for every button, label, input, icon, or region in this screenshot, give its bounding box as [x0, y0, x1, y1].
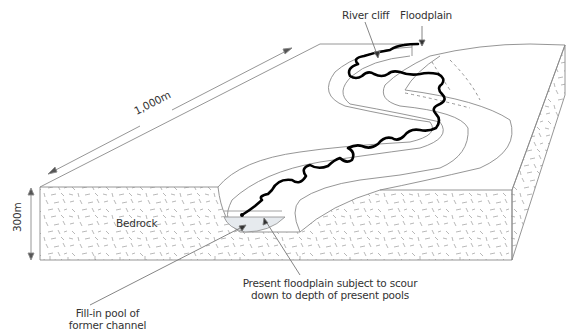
fill-in-pool-line1: Fill-in pool of	[55, 307, 160, 319]
present-floodplain-label: Present floodplain subject to scour down…	[225, 277, 435, 301]
river-cliff-label: River cliff	[342, 9, 389, 21]
present-floodplain-line2: down to depth of present pools	[225, 289, 435, 301]
floodplain-block-diagram: River cliff Floodplain 1,000m 300m Bedro…	[0, 0, 580, 335]
present-floodplain-line1: Present floodplain subject to scour	[225, 277, 435, 289]
depth-dimension-arrow	[28, 188, 34, 260]
floodplain-label: Floodplain	[400, 9, 452, 21]
top-surface	[40, 44, 565, 190]
fill-in-pool-line2: former channel	[55, 319, 160, 331]
depth-label: 300m	[11, 203, 23, 232]
fill-in-pool-label: Fill-in pool of former channel	[55, 307, 160, 331]
right-side-face	[512, 45, 565, 260]
length-dimension-arrow	[48, 48, 292, 174]
bedrock-label: Bedrock	[116, 217, 157, 229]
leader-lines	[90, 22, 425, 305]
